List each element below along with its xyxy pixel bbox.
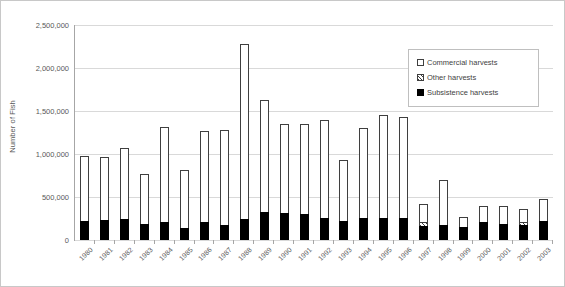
bar-segment-commercial	[280, 124, 289, 213]
bar-slot	[95, 25, 115, 240]
x-axis-tick-label: 1989	[257, 246, 273, 262]
x-axis-tick-label-slot: 1985	[175, 244, 195, 284]
x-axis-tick-label: 1983	[138, 246, 154, 262]
bar-segment-commercial	[479, 206, 488, 222]
legend-item-label: Commercial harvests	[427, 58, 497, 67]
bar-segment-commercial	[379, 115, 388, 217]
stacked-bar[interactable]	[359, 128, 368, 240]
x-axis-tick-label: 1980	[78, 246, 94, 262]
x-axis-tick-label: 1994	[357, 246, 373, 262]
bar-segment-commercial	[539, 199, 548, 221]
bar-segment-commercial	[320, 120, 329, 218]
bar-segment-commercial	[180, 170, 189, 227]
x-axis-tick-label-slot: 1993	[334, 244, 354, 284]
bar-segment-subsistence	[200, 222, 209, 240]
bar-segment-subsistence	[419, 226, 428, 240]
x-axis-tick-label-slot: 2002	[513, 244, 533, 284]
bar-segment-commercial	[439, 180, 448, 225]
bar-segment-commercial	[459, 217, 468, 226]
legend-item: Commercial harvests	[417, 55, 532, 70]
bar-segment-subsistence	[260, 212, 269, 240]
x-axis-tick-label: 1998	[436, 246, 452, 262]
bar-segment-subsistence	[479, 222, 488, 240]
bar-segment-commercial	[359, 128, 368, 218]
stacked-bar[interactable]	[419, 204, 428, 240]
stacked-bar[interactable]	[240, 44, 249, 240]
stacked-bar[interactable]	[280, 124, 289, 240]
x-axis-tick-label-slot: 1982	[115, 244, 135, 284]
bar-segment-subsistence	[379, 218, 388, 240]
x-axis-tick-label: 1997	[417, 246, 433, 262]
bar-segment-commercial	[120, 148, 129, 218]
x-axis-tick-label-slot: 1981	[95, 244, 115, 284]
bar-segment-subsistence	[519, 225, 528, 240]
other-swatch-icon	[417, 74, 424, 81]
x-axis-tick-label: 1985	[177, 246, 193, 262]
stacked-bar[interactable]	[80, 156, 89, 240]
bar-segment-subsistence	[180, 228, 189, 240]
x-axis-tick-label: 2000	[476, 246, 492, 262]
x-axis-tick-label: 1996	[397, 246, 413, 262]
stacked-bar[interactable]	[300, 124, 309, 240]
bar-segment-subsistence	[120, 219, 129, 241]
stacked-bar[interactable]	[200, 131, 209, 240]
stacked-bar[interactable]	[160, 127, 169, 240]
chart-legend: Commercial harvests Other harvests Subsi…	[408, 49, 539, 107]
bar-segment-subsistence	[359, 218, 368, 240]
legend-item-label: Other harvests	[427, 73, 476, 82]
stacked-bar[interactable]	[399, 117, 408, 240]
bar-segment-subsistence	[459, 227, 468, 240]
bar-segment-subsistence	[439, 225, 448, 240]
bar-slot	[314, 25, 334, 240]
bar-segment-commercial	[100, 157, 109, 220]
bar-segment-commercial	[300, 124, 309, 214]
bar-segment-subsistence	[300, 214, 309, 240]
bar-segment-commercial	[80, 156, 89, 221]
stacked-bar[interactable]	[339, 160, 348, 240]
x-axis-tick-label-slot: 2000	[473, 244, 493, 284]
x-axis-tick-label-slot: 1980	[75, 244, 95, 284]
stacked-bar[interactable]	[320, 120, 329, 240]
bar-segment-subsistence	[140, 224, 149, 240]
x-axis-tick-label: 1986	[197, 246, 213, 262]
x-axis-tick-label-slot: 1996	[394, 244, 414, 284]
bar-segment-commercial	[399, 117, 408, 218]
x-axis-tick-label: 1991	[297, 246, 313, 262]
bar-segment-commercial	[140, 174, 149, 224]
bar-segment-subsistence	[280, 213, 289, 240]
x-axis-tick-label: 2001	[496, 246, 512, 262]
stacked-bar[interactable]	[479, 206, 488, 240]
stacked-bar[interactable]	[180, 170, 189, 240]
bar-chart: Number of Fish 0500,0001,000,0001,500,00…	[0, 0, 565, 287]
stacked-bar[interactable]	[260, 100, 269, 240]
stacked-bar[interactable]	[220, 130, 229, 240]
y-axis-title-label: Number of Fish	[8, 100, 17, 153]
bar-slot	[175, 25, 195, 240]
stacked-bar[interactable]	[379, 115, 388, 240]
x-axis-tick-label-slot: 1986	[195, 244, 215, 284]
bar-slot	[294, 25, 314, 240]
y-axis-title: Number of Fish	[3, 1, 21, 251]
legend-item-label: Subsistence harvests	[427, 88, 498, 97]
bar-segment-subsistence	[399, 218, 408, 240]
stacked-bar[interactable]	[519, 209, 528, 240]
bar-slot	[334, 25, 354, 240]
stacked-bar[interactable]	[439, 180, 448, 240]
stacked-bar[interactable]	[140, 174, 149, 240]
x-axis-tick-label-slot: 2001	[493, 244, 513, 284]
bar-segment-commercial	[260, 100, 269, 212]
bar-segment-subsistence	[220, 225, 229, 240]
bar-slot	[214, 25, 234, 240]
bar-segment-subsistence	[160, 222, 169, 240]
bar-slot	[75, 25, 95, 240]
bar-slot	[234, 25, 254, 240]
legend-item: Other harvests	[417, 70, 532, 85]
stacked-bar[interactable]	[499, 206, 508, 240]
stacked-bar[interactable]	[120, 148, 129, 240]
bar-segment-subsistence	[499, 224, 508, 240]
x-axis-tick-label: 1982	[118, 246, 134, 262]
stacked-bar[interactable]	[100, 157, 109, 240]
stacked-bar[interactable]	[459, 217, 468, 240]
x-axis-tick-labels: 1980198119821983198419851986198719881989…	[75, 244, 553, 284]
stacked-bar[interactable]	[539, 199, 548, 240]
